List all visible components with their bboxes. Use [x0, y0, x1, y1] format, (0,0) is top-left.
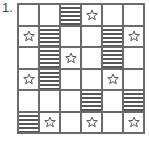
grid-cell-empty	[81, 26, 102, 48]
grid-cell-striped	[123, 90, 144, 112]
grid-cell-striped	[81, 90, 102, 112]
grid-cell-striped	[39, 69, 60, 91]
grid-cell-empty	[102, 4, 123, 26]
grid-cell-striped	[102, 47, 123, 69]
grid-cell-empty	[18, 90, 39, 112]
grid-cell-empty	[39, 4, 60, 26]
star-icon	[86, 116, 98, 128]
grid-cell-empty	[60, 69, 81, 91]
grid-cell-striped	[60, 4, 81, 26]
grid-cell-empty	[18, 47, 39, 69]
star-icon	[128, 116, 140, 128]
grid-cell-star	[102, 69, 123, 91]
grid-cell-empty	[60, 26, 81, 48]
grid-cell-empty	[102, 90, 123, 112]
grid-cell-empty	[81, 69, 102, 91]
grid-cell-empty	[81, 47, 102, 69]
grid-cell-empty	[123, 69, 144, 91]
grid-cell-empty	[102, 112, 123, 134]
grid-cell-empty	[60, 112, 81, 134]
grid-cell-star	[123, 112, 144, 134]
star-icon	[107, 73, 119, 85]
star-icon	[86, 9, 98, 21]
star-icon	[44, 116, 56, 128]
grid-cell-star	[123, 26, 144, 48]
grid-cell-empty	[18, 4, 39, 26]
grid-cell-empty	[39, 90, 60, 112]
grid-cell-striped	[39, 47, 60, 69]
grid-cell-striped	[102, 26, 123, 48]
grid-cell-star	[18, 69, 39, 91]
star-icon	[128, 30, 140, 42]
star-icon	[65, 52, 77, 64]
grid-cell-empty	[123, 4, 144, 26]
star-icon	[23, 30, 35, 42]
grid-cell-star	[81, 4, 102, 26]
grid-cell-star	[39, 112, 60, 134]
grid-cell-star	[18, 26, 39, 48]
grid-cell-star	[60, 47, 81, 69]
grid-cell-star	[81, 112, 102, 134]
grid-cell-empty	[60, 90, 81, 112]
problem-number: 1.	[2, 0, 13, 15]
grid-cell-empty	[123, 47, 144, 69]
grid-cell-striped	[18, 112, 39, 134]
star-icon	[23, 73, 35, 85]
puzzle-grid	[17, 3, 145, 134]
grid-cell-striped	[39, 26, 60, 48]
